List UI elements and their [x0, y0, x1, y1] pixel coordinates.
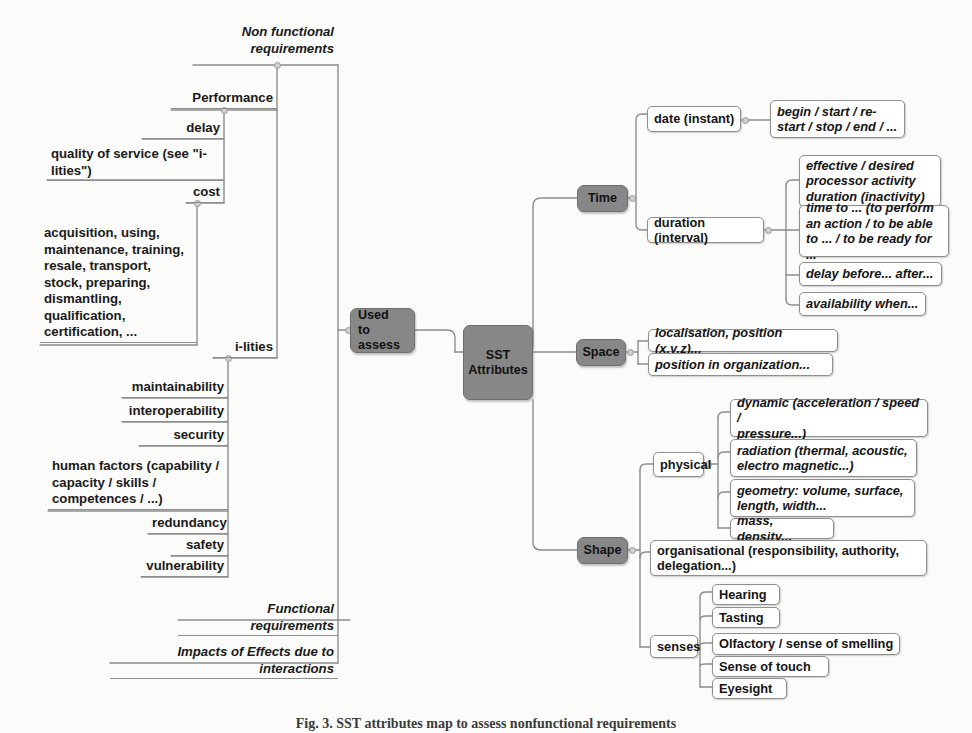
node-shape[interactable]: Shape: [577, 537, 628, 564]
box-hearing[interactable]: Hearing: [712, 584, 780, 605]
box-eyesight[interactable]: Eyesight: [712, 678, 787, 699]
box-begin-start-restart[interactable]: begin / start / re- start / stop / end /…: [770, 100, 905, 138]
box-date-instant[interactable]: date (instant): [647, 106, 741, 132]
node-space[interactable]: Space: [576, 339, 626, 366]
topic-redundancy[interactable]: redundancy: [148, 515, 228, 534]
box-sense-of-touch[interactable]: Sense of touch: [712, 656, 829, 677]
connector-knob-root: [274, 62, 281, 69]
box-dynamic-acceleration-speed-pressure[interactable]: dynamic (acceleration / speed / pressure…: [730, 399, 928, 437]
box-localisation-position[interactable]: localisation, position (x,y,z)...: [648, 329, 838, 352]
topic-interoperability[interactable]: interoperability: [122, 403, 228, 422]
connector-knob-date: [742, 117, 749, 124]
box-position-in-organization[interactable]: position in organization...: [648, 353, 833, 376]
box-physical[interactable]: physical: [653, 452, 704, 477]
topic-functional-requirements[interactable]: Functional requirements: [178, 601, 338, 636]
topic-maintainability[interactable]: maintainability: [122, 379, 228, 398]
box-radiation-thermal-acoustic[interactable]: radiation (thermal, acoustic, electro ma…: [730, 439, 917, 477]
topic-security[interactable]: security: [139, 427, 228, 446]
box-senses[interactable]: senses: [650, 635, 698, 658]
box-organisational-responsibility-authority[interactable]: organisational (responsibility, authorit…: [650, 540, 927, 576]
connector-knob-space: [627, 349, 634, 356]
figure-caption: Fig. 3. SST attributes map to assess non…: [0, 716, 972, 732]
node-sst-attributes[interactable]: SST Attributes: [463, 325, 533, 400]
topic-cost-details[interactable]: acquisition, using, maintenance, trainin…: [40, 225, 197, 343]
box-duration-interval[interactable]: duration (interval): [647, 217, 764, 243]
node-used-to-assess[interactable]: Used to assess: [350, 308, 415, 353]
topic-performance[interactable]: Performance: [171, 90, 277, 109]
connector-knob-time: [629, 195, 636, 202]
topic-delay[interactable]: delay: [142, 120, 224, 139]
box-olfactory-sense-of-smelling[interactable]: Olfactory / sense of smelling: [712, 633, 900, 655]
topic-impacts-of-effects[interactable]: Impacts of Effects due to interactions: [110, 644, 338, 679]
box-geometry-volume-surface[interactable]: geometry: volume, surface, length, width…: [730, 479, 915, 517]
topic-quality-of-service[interactable]: quality of service (see "i- lities"): [47, 146, 224, 181]
box-availability-when[interactable]: availability when...: [799, 292, 926, 316]
connector-knob-shape: [629, 547, 636, 554]
topic-safety[interactable]: safety: [171, 537, 228, 556]
diagram-canvas: Non functional requirements Performance …: [0, 0, 972, 733]
connector-knob-duration: [765, 227, 772, 234]
topic-human-factors[interactable]: human factors (capability / capacity / s…: [48, 458, 228, 510]
box-delay-before-after[interactable]: delay before... after...: [799, 262, 942, 286]
box-time-to-perform-an-action[interactable]: time to ... (to perform an action / to b…: [799, 205, 949, 257]
topic-cost[interactable]: cost: [186, 184, 224, 203]
topic-ilities[interactable]: i-lities: [213, 339, 277, 358]
box-tasting[interactable]: Tasting: [712, 607, 780, 628]
node-time[interactable]: Time: [577, 185, 628, 212]
topic-vulnerability[interactable]: vulnerability: [141, 558, 228, 577]
root-topic-non-functional-requirements[interactable]: Non functional requirements: [193, 24, 338, 58]
box-mass-density[interactable]: mass, density...: [730, 518, 834, 539]
